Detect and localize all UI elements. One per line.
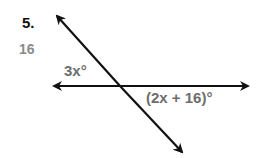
angle-label-2x-plus-16: (2x + 16)° — [146, 89, 212, 106]
angle-label-3x: 3x° — [64, 62, 87, 79]
angle-diagram — [0, 0, 259, 158]
